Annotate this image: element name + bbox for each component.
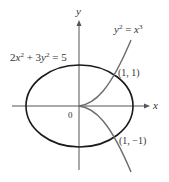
point-label-1-1: (1, 1) <box>118 68 140 78</box>
ellipse-equation-label: 2x2 + 3y2 = 5 <box>10 52 67 63</box>
cusp-equation-label: y2 = x3 <box>114 24 143 35</box>
plot-svg <box>0 0 169 182</box>
y-axis-label: y <box>76 6 81 17</box>
x-axis-arrow-icon <box>144 104 150 109</box>
x-axis-label: x <box>153 100 158 111</box>
origin-label: 0 <box>68 111 73 120</box>
y-axis-arrow-icon <box>77 20 82 26</box>
figure-canvas: y x 0 2x2 + 3y2 = 5 y2 = x3 (1, 1) (1, −… <box>0 0 169 182</box>
point-label-1-neg1: (1, −1) <box>119 136 146 146</box>
